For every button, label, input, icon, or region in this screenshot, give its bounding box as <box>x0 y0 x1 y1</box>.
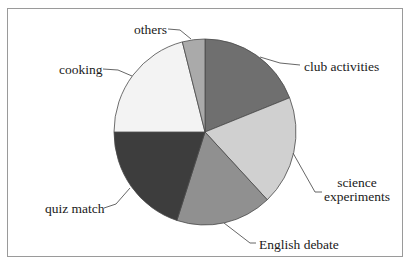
label-quiz-match: quiz match <box>45 201 105 216</box>
leader-line-science <box>293 153 322 192</box>
label-science-line1: science <box>337 175 377 190</box>
label-club-activities: club activities <box>304 59 379 74</box>
leader-line-english <box>224 223 256 243</box>
label-science-line2: experiments <box>324 189 390 204</box>
leader-line-quiz <box>104 188 130 208</box>
leader-line-others <box>168 29 191 39</box>
label-others: others <box>134 22 167 37</box>
pie-chart: club activities science experiments Engl… <box>0 0 409 270</box>
leader-line-cooking <box>103 69 132 76</box>
pie-slices <box>114 39 296 225</box>
label-english-debate: English debate <box>259 237 339 252</box>
label-cooking: cooking <box>59 62 103 77</box>
